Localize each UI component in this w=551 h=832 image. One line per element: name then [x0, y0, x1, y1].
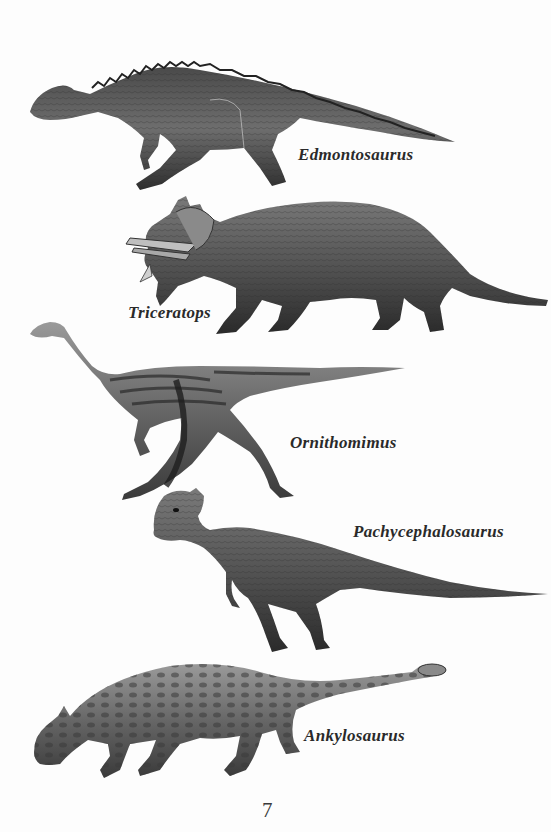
caption-ankylosaurus: Ankylosaurus: [304, 726, 405, 746]
caption-edmontosaurus: Edmontosaurus: [298, 145, 413, 165]
book-page: Edmontosaurus Triceratops Ornithomimus P…: [0, 0, 551, 832]
caption-ornithomimus: Ornithomimus: [290, 433, 397, 453]
dinosaur-illustrations: [0, 0, 551, 832]
page-number: 7: [262, 798, 273, 823]
caption-pachycephalosaurus: Pachycephalosaurus: [353, 522, 504, 542]
ankylosaurus-illustration: [34, 664, 446, 778]
pachycephalosaurus-illustration: [154, 488, 549, 652]
caption-triceratops: Triceratops: [128, 303, 211, 323]
ornithomimus-illustration: [30, 322, 405, 500]
edmontosaurus-illustration: [30, 62, 455, 190]
